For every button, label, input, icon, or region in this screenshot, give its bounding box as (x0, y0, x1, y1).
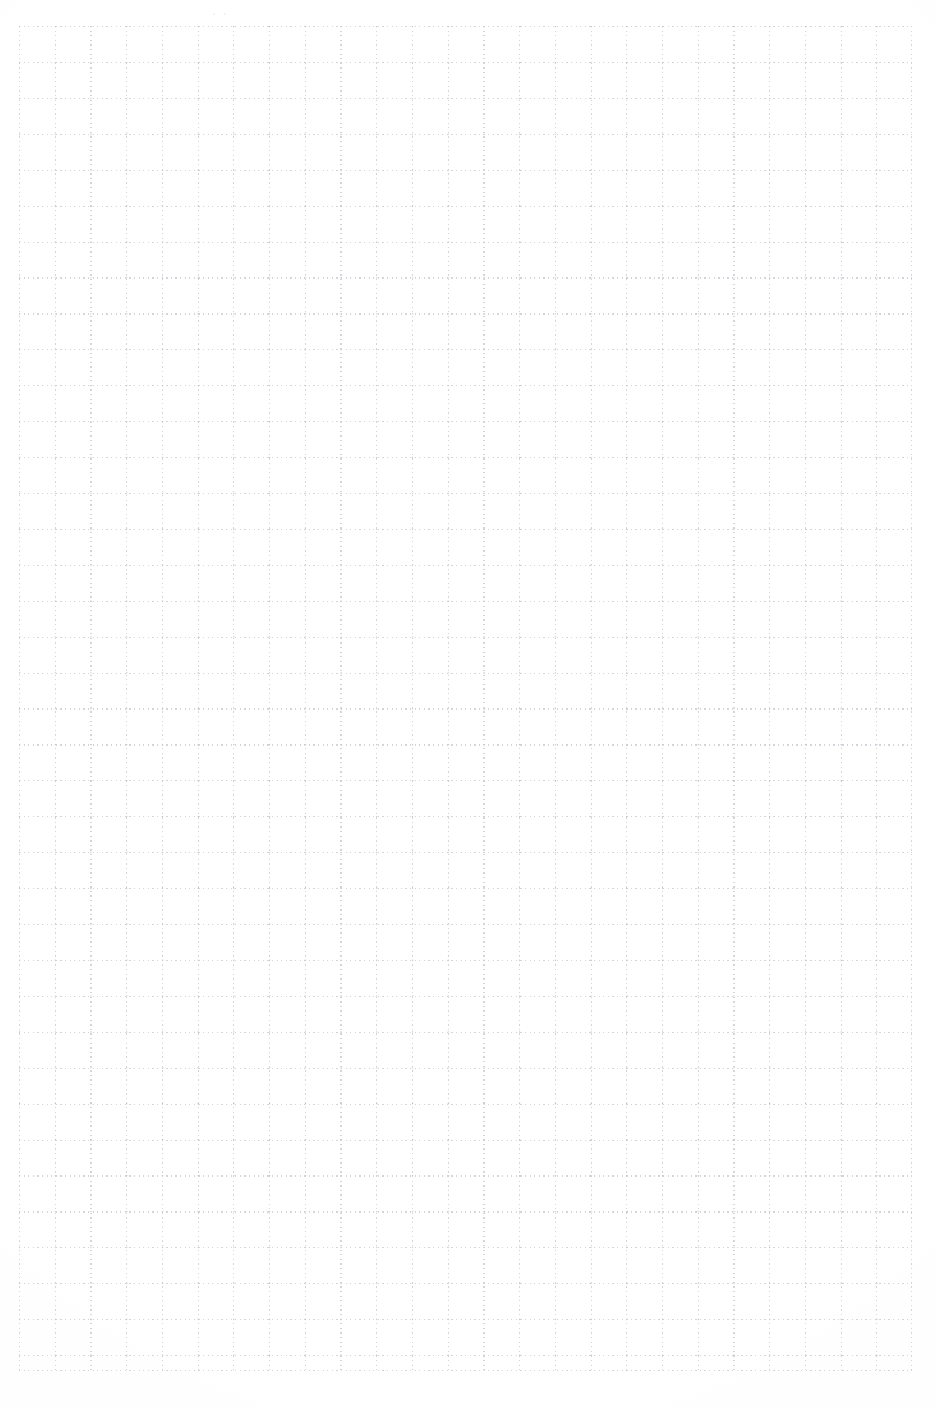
grid-intersection-dots (19, 26, 912, 1371)
grid-bottom-edge-rule (19, 1370, 912, 1371)
grid-paper-page: · · · (0, 0, 936, 1408)
grid-right-edge-rule (911, 26, 912, 1371)
dotted-grid (19, 26, 912, 1371)
scan-smudge-top: · · (212, 6, 228, 20)
scan-smudge-bottom: · (384, 1366, 388, 1375)
